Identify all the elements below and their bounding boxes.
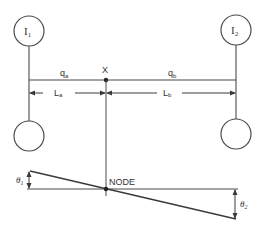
theta-2-label: θ2	[240, 199, 247, 210]
node-dot	[104, 187, 108, 191]
theta-1-label: θ1	[16, 175, 23, 186]
segment-b-label: qb	[168, 68, 177, 79]
inertia-i1-label: I1	[24, 25, 32, 39]
node-point-label: X	[102, 65, 108, 75]
length-b-label: Lb	[163, 88, 172, 98]
inertia-i2-label: I2	[231, 24, 239, 38]
theta-1-indicator: θ1	[16, 172, 29, 188]
dimension-la: La	[30, 88, 105, 98]
inertia-i2: I2	[221, 15, 251, 45]
segment-a-label: qa	[60, 68, 69, 79]
bottom-left-circle	[14, 121, 44, 151]
inertia-i1: I1	[14, 16, 44, 46]
dimension-lb: Lb	[107, 88, 235, 98]
theta-2-indicator: θ2	[235, 190, 247, 218]
length-a-label: La	[54, 88, 63, 98]
node-label: NODE	[109, 177, 135, 187]
bottom-right-circle	[221, 119, 251, 149]
shaft-node-diagram: I1 I2 qa qb X La Lb NODE θ1	[0, 0, 263, 231]
